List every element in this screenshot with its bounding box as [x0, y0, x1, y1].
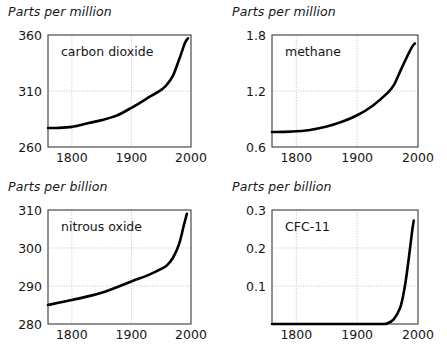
- data-curve-cfc-11: [272, 221, 414, 324]
- panel-methane: Parts per million 0.61.21.8180019002000m…: [224, 0, 447, 176]
- y-tick-label: 260: [18, 140, 42, 155]
- y-tick-label: 280: [18, 317, 42, 332]
- y-tick-label: 310: [18, 203, 42, 218]
- y-tick-label: 360: [18, 28, 42, 43]
- x-tick-label: 2000: [175, 327, 207, 342]
- series-label-nitrous-oxide: nitrous oxide: [61, 219, 142, 234]
- x-tick-label: 1800: [280, 327, 312, 342]
- panel-nitrous-oxide: Parts per billion 2802903003101800190020…: [0, 176, 224, 351]
- plot-nitrous-oxide: 280290300310180019002000nitrous oxide: [0, 176, 224, 351]
- y-tick-label: 0.6: [246, 140, 266, 155]
- panel-title-cfc-11: Parts per billion: [232, 179, 332, 194]
- y-tick-label: 1.2: [246, 84, 266, 99]
- x-tick-label: 1800: [56, 150, 88, 165]
- panel-cfc-11: Parts per billion 0.10.20.3180019002000C…: [224, 176, 447, 351]
- x-tick-label: 1900: [341, 150, 373, 165]
- plot-cfc-11: 0.10.20.3180019002000CFC-11: [224, 176, 447, 351]
- y-tick-label: 290: [18, 279, 42, 294]
- y-tick-label: 310: [18, 84, 42, 99]
- panel-carbon-dioxide: Parts per million 260310360180019002000c…: [0, 0, 224, 176]
- panel-title-carbon-dioxide: Parts per million: [8, 4, 112, 19]
- x-tick-label: 1800: [280, 150, 312, 165]
- x-tick-label: 1900: [341, 327, 373, 342]
- panel-title-methane: Parts per million: [232, 4, 336, 19]
- greenhouse-gas-figure: Parts per million 260310360180019002000c…: [0, 0, 447, 351]
- series-label-methane: methane: [285, 44, 341, 59]
- panel-title-nitrous-oxide: Parts per billion: [8, 179, 108, 194]
- series-label-carbon-dioxide: carbon dioxide: [61, 44, 154, 59]
- x-tick-label: 2000: [175, 150, 207, 165]
- plot-carbon-dioxide: 260310360180019002000carbon dioxide: [0, 0, 224, 176]
- y-tick-label: 0.2: [246, 241, 266, 256]
- plot-methane: 0.61.21.8180019002000methane: [224, 0, 447, 176]
- x-tick-label: 2000: [402, 327, 434, 342]
- x-tick-label: 2000: [402, 150, 434, 165]
- x-tick-label: 1900: [116, 150, 148, 165]
- y-tick-label: 0.3: [246, 203, 266, 218]
- y-tick-label: 0.1: [246, 279, 266, 294]
- x-tick-label: 1800: [56, 327, 88, 342]
- series-label-cfc-11: CFC-11: [285, 219, 330, 234]
- x-tick-label: 1900: [116, 327, 148, 342]
- y-tick-label: 300: [18, 241, 42, 256]
- y-tick-label: 1.8: [246, 28, 266, 43]
